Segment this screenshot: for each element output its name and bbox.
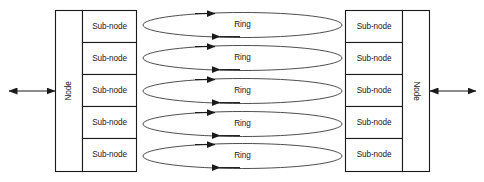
ring-list: Ring Ring Ring Ring [143,13,342,169]
left-sub-node-label-3: Sub-node [92,86,127,95]
ring-topology-diagram: Node Sub-node Sub-node Sub-node Sub-node… [0,0,484,182]
ring-label-1: Ring [234,20,251,29]
ring-3: Ring [143,79,342,104]
ring-5: Ring [143,144,342,169]
left-sub-node-label-5: Sub-node [92,150,127,159]
right-node-label: Node [412,81,421,101]
right-sub-node-label-3: Sub-node [357,86,392,95]
diagram-canvas: Node Sub-node Sub-node Sub-node Sub-node… [0,0,484,182]
right-sub-node-label-4: Sub-node [357,118,392,127]
ring-2: Ring [143,46,342,71]
right-sub-node-list: Sub-node Sub-node Sub-node Sub-node Sub-… [346,11,403,172]
right-sub-node-label-5: Sub-node [357,150,392,159]
right-sub-node-label-2: Sub-node [357,54,392,63]
left-sub-node-label-1: Sub-node [92,22,127,31]
left-sub-node-list: Sub-node Sub-node Sub-node Sub-node Sub-… [83,11,137,172]
left-node-label: Node [64,81,73,101]
ring-label-3: Ring [234,86,251,95]
ring-label-5: Ring [234,151,251,160]
right-sub-node-label-1: Sub-node [357,22,392,31]
ring-label-4: Ring [234,119,251,128]
ring-label-2: Ring [234,53,251,62]
left-sub-node-label-2: Sub-node [92,54,127,63]
ring-1: Ring [143,13,342,38]
left-sub-node-label-4: Sub-node [92,118,127,127]
ring-4: Ring [143,112,342,137]
